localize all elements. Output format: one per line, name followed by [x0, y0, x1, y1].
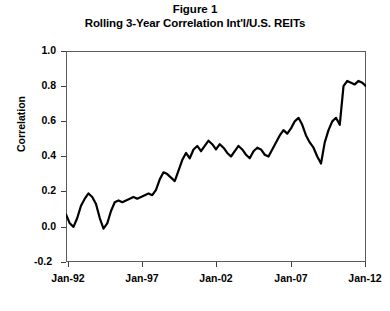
y-tick-label-0.0: 0.0 [14, 221, 56, 232]
y-tick-mark--0.2 [61, 262, 66, 263]
figure-container: Figure 1 Rolling 3-Year Correlation Int'… [0, 0, 390, 311]
x-tick-label-jan-97: Jan-97 [107, 272, 177, 284]
figure-number-title: Figure 1 [0, 2, 390, 16]
x-tick-mark-jan-07 [291, 262, 292, 267]
chart-title-block: Figure 1 Rolling 3-Year Correlation Int'… [0, 2, 390, 30]
x-tick-label-jan-02: Jan-02 [181, 272, 251, 284]
x-tick-mark-jan-97 [142, 262, 143, 267]
y-tick-label--0.2: -0.2 [10, 256, 52, 267]
x-tick-label-jan-07: Jan-07 [256, 272, 326, 284]
x-tick-label-jan-92: Jan-92 [33, 272, 103, 284]
correlation-line-chart [66, 51, 366, 262]
x-tick-mark-jan-12 [365, 262, 366, 267]
y-tick-label-0.6: 0.6 [14, 115, 56, 126]
figure-subtitle: Rolling 3-Year Correlation Int'l/U.S. RE… [0, 16, 390, 30]
y-tick-label-0.2: 0.2 [14, 185, 56, 196]
x-tick-label-jan-12: Jan-12 [330, 272, 390, 284]
series-line-rolling-correlation [66, 81, 366, 229]
y-tick-label-1.0: 1.0 [14, 45, 56, 56]
x-tick-mark-jan-02 [216, 262, 217, 267]
y-tick-label-0.8: 0.8 [14, 80, 56, 91]
y-tick-label-0.4: 0.4 [14, 150, 56, 161]
x-tick-mark-jan-92 [68, 262, 69, 267]
